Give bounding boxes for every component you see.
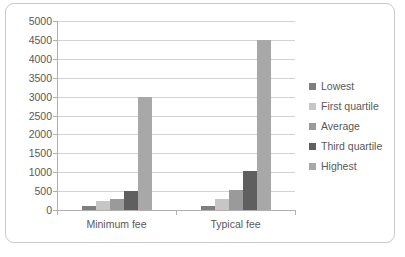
x-axis-category-label: Minimum fee <box>62 218 172 230</box>
y-axis-tick-label: 3500 <box>8 73 52 83</box>
legend-swatch-icon <box>309 143 316 150</box>
legend-swatch-icon <box>309 103 316 110</box>
x-axis-tick-mark <box>295 210 296 215</box>
y-axis-tick-mark <box>53 59 58 60</box>
legend-item[interactable]: Third quartile <box>309 136 395 156</box>
legend-item-label: Average <box>321 120 360 132</box>
bar[interactable] <box>243 171 257 210</box>
y-axis-tick-mark <box>53 40 58 41</box>
bar[interactable] <box>229 190 243 210</box>
y-axis-tick-labels: 0500100015002000250030003500400045005000 <box>6 4 52 224</box>
legend-item-label: First quartile <box>321 100 379 112</box>
legend-swatch-icon <box>309 123 316 130</box>
legend-swatch-icon <box>309 163 316 170</box>
chart-legend: LowestFirst quartileAverageThird quartil… <box>309 76 395 176</box>
legend-item[interactable]: Highest <box>309 156 395 176</box>
y-axis-tick-mark <box>53 153 58 154</box>
y-axis-tick-label: 5000 <box>8 16 52 26</box>
y-axis-tick-label: 1000 <box>8 167 52 177</box>
bar[interactable] <box>138 97 152 210</box>
y-axis-tick-label: 4000 <box>8 54 52 64</box>
y-axis-tick-label: 1500 <box>8 148 52 158</box>
bar[interactable] <box>110 199 124 210</box>
y-axis-tick-mark <box>53 78 58 79</box>
y-axis-tick-mark <box>53 21 58 22</box>
legend-item-label: Highest <box>321 160 357 172</box>
legend-item[interactable]: Average <box>309 116 395 136</box>
plot-area <box>57 21 295 210</box>
y-axis-tick-mark <box>53 172 58 173</box>
y-axis-tick-label: 0 <box>8 205 52 215</box>
legend-item-label: Lowest <box>321 80 354 92</box>
y-axis-tick-label: 500 <box>8 186 52 196</box>
y-axis-tick-mark <box>53 191 58 192</box>
legend-item[interactable]: Lowest <box>309 76 395 96</box>
bar[interactable] <box>124 191 138 210</box>
legend-item[interactable]: First quartile <box>309 96 395 116</box>
bar[interactable] <box>257 40 271 210</box>
bar[interactable] <box>96 201 110 210</box>
bar[interactable] <box>215 199 229 210</box>
legend-item-label: Third quartile <box>321 140 382 152</box>
y-axis-tick-label: 2000 <box>8 129 52 139</box>
x-axis-category-label: Typical fee <box>181 218 291 230</box>
bar-group <box>82 21 152 210</box>
chart-frame: 0500100015002000250030003500400045005000… <box>5 3 395 243</box>
x-axis-tick-mark <box>176 210 177 215</box>
y-axis-tick-label: 3000 <box>8 92 52 102</box>
y-axis-tick-label: 2500 <box>8 111 52 121</box>
y-axis-tick-label: 4500 <box>8 35 52 45</box>
y-axis-tick-mark <box>53 134 58 135</box>
legend-swatch-icon <box>309 83 316 90</box>
bar-group <box>201 21 271 210</box>
x-axis-tick-mark <box>57 210 58 215</box>
y-axis-tick-mark <box>53 116 58 117</box>
y-axis-tick-mark <box>53 97 58 98</box>
